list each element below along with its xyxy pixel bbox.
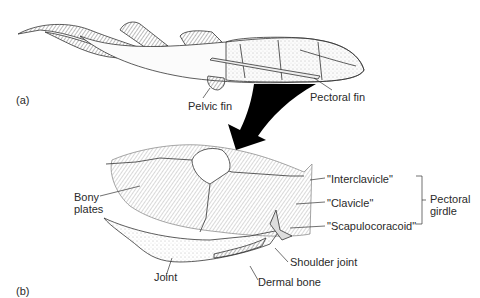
pelvic-fin-label: Pelvic fin: [188, 100, 232, 112]
panel-a-label: (a): [16, 94, 29, 106]
placoderm-illustration: [0, 0, 480, 298]
pectoral-girdle-label-line2: girdle: [430, 205, 457, 217]
panel-b-label: (b): [16, 285, 29, 297]
shoulder-joint-label: Shoulder joint: [290, 256, 357, 268]
fish-drawing: [18, 22, 364, 90]
clavicle-label: "Clavicle": [327, 197, 373, 209]
bony-plates-label-line2: plates: [74, 203, 103, 215]
joint-label: Joint: [154, 271, 177, 283]
dermal-bone-label: Dermal bone: [258, 276, 321, 288]
interclavicle-label: "Interclavicle": [327, 173, 393, 185]
pectoral-girdle-drawing: [104, 145, 312, 262]
scapulocoracoid-label: "Scapulocoracoid": [327, 220, 416, 232]
arrow-icon: [228, 84, 316, 150]
pectoral-girdle-label-line1: Pectoral: [430, 193, 470, 205]
pectoral-fin-label: Pectoral fin: [310, 91, 365, 103]
bony-plates-label-line1: Bony: [74, 191, 99, 203]
